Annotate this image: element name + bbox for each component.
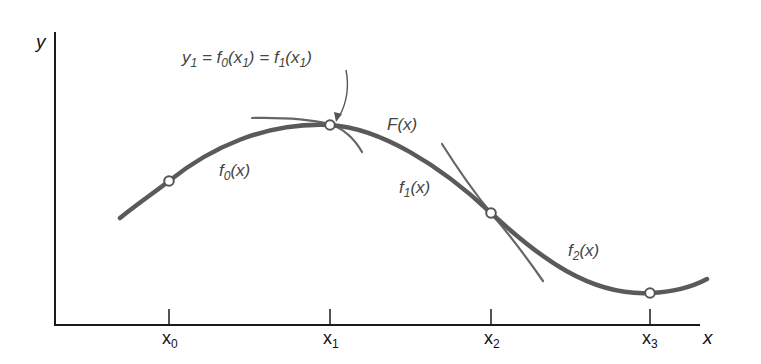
x-axis-label: x xyxy=(702,327,714,348)
F-label: F(x) xyxy=(387,115,417,134)
node-x1 xyxy=(325,120,335,130)
tick-label-x2: x2 xyxy=(484,328,500,351)
node-x2 xyxy=(486,208,496,218)
f1-label: f1(x) xyxy=(399,178,430,200)
node-x3 xyxy=(645,288,655,298)
f2-label: f2(x) xyxy=(568,241,599,263)
f0-label: f0(x) xyxy=(219,161,250,183)
annotation-equation: y1 = f0(x1) = f1(x1) xyxy=(181,48,312,70)
annotation-arrow xyxy=(334,70,347,122)
spline-diagram: y x x0 x1 x2 x3 F(x) f0(x) f1(x) f2(x) y… xyxy=(0,0,761,364)
tick-label-x3: x3 xyxy=(642,328,658,351)
node-x0 xyxy=(164,176,174,186)
axes xyxy=(54,32,700,326)
F-curve xyxy=(120,125,707,293)
y-axis-label: y xyxy=(34,31,47,52)
tick-label-x0: x0 xyxy=(162,328,178,351)
x-ticks xyxy=(169,309,650,325)
nodes xyxy=(164,120,655,298)
tick-label-x1: x1 xyxy=(323,328,339,351)
